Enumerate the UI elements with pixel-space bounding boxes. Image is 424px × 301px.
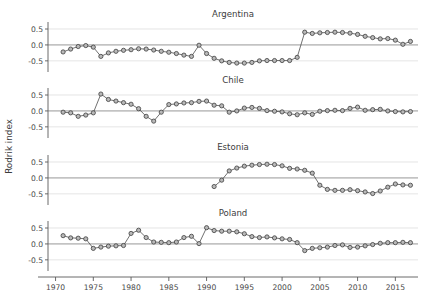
data-point-marker bbox=[378, 189, 382, 193]
data-point-marker bbox=[144, 235, 148, 239]
data-point-marker bbox=[295, 55, 299, 59]
data-point-marker bbox=[340, 30, 344, 34]
data-point-marker bbox=[378, 37, 382, 41]
data-point-marker bbox=[76, 114, 80, 118]
data-point-marker bbox=[204, 51, 208, 55]
data-point-marker bbox=[325, 245, 329, 249]
data-point-marker bbox=[137, 47, 141, 51]
data-point-marker bbox=[235, 61, 239, 65]
data-point-marker bbox=[393, 38, 397, 42]
data-point-marker bbox=[212, 228, 216, 232]
data-point-marker bbox=[272, 236, 276, 240]
data-point-marker bbox=[159, 49, 163, 53]
chart-canvas: 0.50.0-0.5Argentina0.50.0-0.5Chile0.50.0… bbox=[0, 0, 424, 301]
data-point-marker bbox=[280, 110, 284, 114]
data-point-marker bbox=[325, 30, 329, 34]
rodrik-index-multi-panel-chart: 0.50.0-0.5Argentina0.50.0-0.5Chile0.50.0… bbox=[0, 0, 424, 301]
y-tick-label: 0.5 bbox=[31, 158, 43, 167]
data-point-marker bbox=[408, 183, 412, 187]
data-point-marker bbox=[355, 32, 359, 36]
data-point-marker bbox=[363, 244, 367, 248]
data-point-marker bbox=[288, 112, 292, 116]
data-point-marker bbox=[69, 111, 73, 115]
y-tick-label: -0.5 bbox=[28, 57, 43, 66]
x-tick-label: 1975 bbox=[84, 283, 103, 292]
data-point-marker bbox=[242, 232, 246, 236]
x-tick-label: 2015 bbox=[386, 283, 405, 292]
data-point-marker bbox=[257, 162, 261, 166]
data-point-marker bbox=[84, 113, 88, 117]
data-point-marker bbox=[355, 189, 359, 193]
data-point-marker bbox=[310, 246, 314, 250]
data-point-marker bbox=[76, 44, 80, 48]
data-point-marker bbox=[265, 235, 269, 239]
x-tick-label: 1990 bbox=[197, 283, 216, 292]
data-point-marker bbox=[167, 102, 171, 106]
data-point-marker bbox=[197, 43, 201, 47]
data-point-marker bbox=[333, 108, 337, 112]
data-point-marker bbox=[212, 56, 216, 60]
data-point-marker bbox=[333, 243, 337, 247]
data-point-marker bbox=[242, 164, 246, 168]
data-point-marker bbox=[250, 163, 254, 167]
data-point-marker bbox=[265, 109, 269, 113]
data-point-marker bbox=[310, 31, 314, 35]
data-point-marker bbox=[333, 30, 337, 34]
data-point-marker bbox=[61, 50, 65, 54]
data-point-marker bbox=[91, 246, 95, 250]
panel-title: Estonia bbox=[217, 142, 249, 152]
data-point-marker bbox=[250, 60, 254, 64]
data-point-marker bbox=[121, 48, 125, 52]
data-point-marker bbox=[242, 106, 246, 110]
data-point-marker bbox=[386, 36, 390, 40]
data-point-marker bbox=[99, 245, 103, 249]
data-point-marker bbox=[386, 241, 390, 245]
data-point-marker bbox=[189, 54, 193, 58]
panel-poland: 0.50.0-0.5Poland bbox=[28, 208, 418, 271]
data-point-marker bbox=[340, 188, 344, 192]
data-point-marker bbox=[106, 51, 110, 55]
y-tick-label: 0.0 bbox=[31, 174, 43, 183]
data-point-marker bbox=[257, 106, 261, 110]
data-point-marker bbox=[355, 245, 359, 249]
data-point-marker bbox=[363, 190, 367, 194]
y-tick-label: -0.5 bbox=[28, 123, 43, 132]
data-point-marker bbox=[182, 101, 186, 105]
panel-title: Argentina bbox=[212, 9, 254, 19]
x-tick-label: 1970 bbox=[46, 283, 65, 292]
data-point-marker bbox=[288, 166, 292, 170]
data-point-marker bbox=[61, 234, 65, 238]
data-point-marker bbox=[220, 104, 224, 108]
data-point-marker bbox=[106, 244, 110, 248]
data-point-marker bbox=[272, 162, 276, 166]
data-point-marker bbox=[257, 235, 261, 239]
y-tick-label: 0.0 bbox=[31, 240, 43, 249]
data-point-marker bbox=[257, 59, 261, 63]
data-point-marker bbox=[408, 109, 412, 113]
data-point-marker bbox=[280, 58, 284, 62]
data-point-marker bbox=[348, 106, 352, 110]
data-point-marker bbox=[152, 48, 156, 52]
data-point-marker bbox=[265, 162, 269, 166]
data-point-marker bbox=[295, 167, 299, 171]
data-point-marker bbox=[129, 48, 133, 52]
x-tick-label: 1985 bbox=[159, 283, 178, 292]
data-point-marker bbox=[84, 237, 88, 241]
data-point-marker bbox=[325, 187, 329, 191]
data-point-marker bbox=[212, 103, 216, 107]
data-point-marker bbox=[114, 244, 118, 248]
data-point-marker bbox=[280, 237, 284, 241]
data-point-marker bbox=[227, 110, 231, 114]
data-point-marker bbox=[227, 169, 231, 173]
data-point-marker bbox=[303, 249, 307, 253]
data-point-marker bbox=[235, 109, 239, 113]
data-point-marker bbox=[318, 246, 322, 250]
data-point-marker bbox=[393, 241, 397, 245]
y-tick-label: -0.5 bbox=[28, 190, 43, 199]
data-point-marker bbox=[303, 30, 307, 34]
data-point-marker bbox=[401, 240, 405, 244]
data-point-marker bbox=[340, 243, 344, 247]
data-point-marker bbox=[61, 110, 65, 114]
panel-argentina: 0.50.0-0.5Argentina bbox=[28, 9, 418, 72]
data-point-marker bbox=[310, 171, 314, 175]
